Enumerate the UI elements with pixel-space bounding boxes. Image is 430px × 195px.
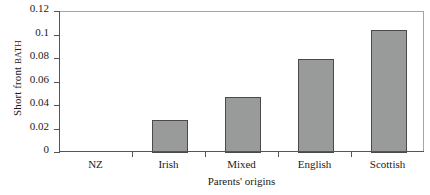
- y-axis-title-smallcaps: BATH: [13, 40, 23, 64]
- y-axis-tick-label: 0.12: [30, 3, 49, 14]
- y-axis-tick-label: 0: [44, 144, 50, 155]
- bar: [225, 97, 261, 153]
- plot-area: [59, 11, 424, 152]
- y-axis-tick: 0.02: [0, 129, 59, 130]
- x-axis-tick-mark: [278, 152, 279, 157]
- bar: [152, 120, 188, 153]
- x-axis-tick-mark: [205, 152, 206, 157]
- y-axis-tick: 0: [0, 152, 59, 153]
- y-axis-title: Short front BATH: [11, 3, 23, 153]
- y-axis-tick-label: 0.1: [35, 27, 49, 38]
- x-axis-tick-mark: [351, 152, 352, 157]
- x-axis-category-label: Mixed: [205, 158, 278, 171]
- bar: [371, 30, 407, 153]
- x-axis-category-label: Scottish: [351, 158, 424, 171]
- y-axis-tick: 0.08: [0, 58, 59, 59]
- x-axis-title: Parents' origins: [59, 175, 424, 187]
- y-axis-tick-label: 0.08: [30, 50, 49, 61]
- x-axis-line: [59, 151, 424, 152]
- bar-chart: Short front BATH 00.020.040.060.080.10.1…: [0, 0, 430, 195]
- y-axis-tick: 0.12: [0, 11, 59, 12]
- x-axis-category-label: NZ: [59, 158, 132, 171]
- y-axis-tick: 0.06: [0, 82, 59, 83]
- x-axis-category-label: English: [278, 158, 351, 171]
- x-axis-category-label: Irish: [132, 158, 205, 171]
- y-axis-tick: 0.04: [0, 105, 59, 106]
- y-axis-title-main: Short front: [11, 64, 23, 116]
- y-axis-tick-label: 0.02: [30, 121, 49, 132]
- y-axis-tick: 0.1: [0, 35, 59, 36]
- bar: [298, 59, 334, 153]
- x-axis-tick-mark: [132, 152, 133, 157]
- y-axis-tick-label: 0.04: [30, 97, 49, 108]
- y-axis-tick-label: 0.06: [30, 74, 49, 85]
